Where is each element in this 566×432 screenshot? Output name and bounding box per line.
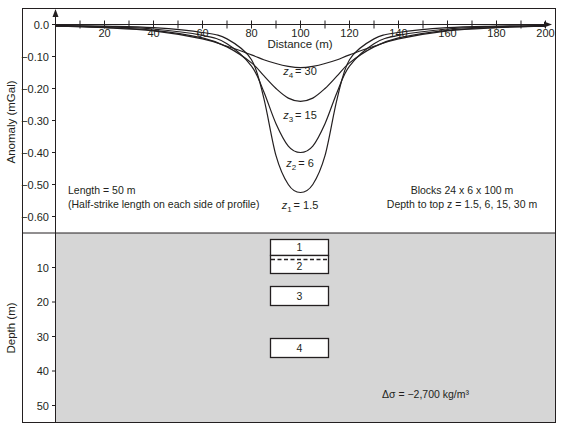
block-label-4: 4	[297, 342, 303, 354]
block-4: 4	[271, 339, 329, 358]
x-tick-label: 40	[147, 27, 159, 39]
note-depths: Depth to top z = 1.5, 6, 15, 30 m	[387, 198, 538, 210]
x-tick-label: 180	[487, 27, 505, 39]
x-tick-label: 120	[340, 27, 358, 39]
anomaly-y-ticks: 0.0−0.10−0.20−0.30−0.40−0.50−0.60	[21, 19, 56, 223]
depth-tick-label: 40	[37, 365, 49, 377]
y-tick-label: −0.40	[21, 147, 49, 159]
block-label-3: 3	[297, 290, 303, 302]
x-tick-label: 140	[389, 27, 407, 39]
curve-label-z2: z2= 6	[285, 157, 314, 172]
y-tick-label: −0.50	[21, 179, 49, 191]
block-label-1: 1	[297, 241, 303, 253]
depth-tick-label: 10	[37, 262, 49, 274]
curve-label-z3: z3= 15	[282, 109, 317, 124]
curve-label-z4: z4= 30	[282, 65, 317, 80]
note-half-strike: (Half-strike length on each side of prof…	[68, 198, 259, 210]
x-axis-title: Distance (m)	[267, 38, 332, 50]
note-length: Length = 50 m	[68, 184, 136, 196]
x-tick-label: 20	[98, 27, 110, 39]
x-tick-label: 200	[536, 27, 554, 39]
depth-y-ticks: 1020304050	[37, 262, 56, 412]
y-tick-label: −0.10	[21, 51, 49, 63]
x-tick-label: 80	[245, 27, 257, 39]
y-axis-arrow-icon	[53, 9, 59, 17]
x-tick-label: 160	[438, 27, 456, 39]
figure: 0.0−0.10−0.20−0.30−0.40−0.50−0.60 102030…	[0, 0, 566, 432]
y-axis-title-anomaly: Anomaly (mGal)	[5, 80, 17, 163]
y-tick-label: 0.0	[34, 19, 49, 31]
block-label-2: 2	[297, 260, 303, 272]
depth-tick-label: 20	[37, 296, 49, 308]
x-tick-label: 60	[196, 27, 208, 39]
density-contrast-label: Δσ = −2,700 kg/m³	[382, 388, 470, 400]
depth-tick-label: 50	[37, 400, 49, 412]
depth-tick-label: 30	[37, 331, 49, 343]
y-tick-label: −0.20	[21, 83, 49, 95]
y-tick-label: −0.60	[21, 211, 49, 223]
block-2: 2	[271, 256, 329, 274]
note-blocks: Blocks 24 x 6 x 100 m	[411, 184, 514, 196]
distance-x-ticks: 20406080100120140160180200	[80, 21, 555, 40]
block-3: 3	[271, 287, 329, 306]
y-tick-label: −0.30	[21, 115, 49, 127]
y-axis-title-depth: Depth (m)	[5, 302, 17, 353]
block-1: 1	[271, 240, 329, 256]
curve-label-z1: z1= 1.5	[281, 199, 319, 214]
